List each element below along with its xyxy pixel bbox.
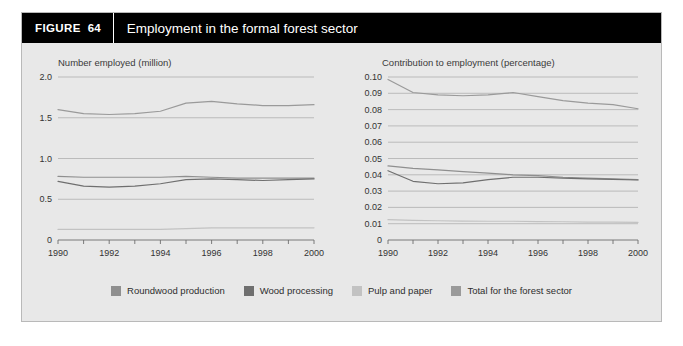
chart-title-left: Number employed (million) (58, 57, 172, 68)
legend-swatch-icon (451, 286, 461, 296)
svg-text:0.01: 0.01 (364, 219, 382, 229)
svg-text:1990: 1990 (48, 248, 68, 258)
legend-swatch-icon (352, 286, 362, 296)
svg-text:0: 0 (47, 235, 52, 245)
legend-item-roundwood-production: Roundwood production (111, 285, 225, 296)
chart-legend: Roundwood production Wood processing Pul… (22, 285, 661, 296)
line-chart-left: 00.51.01.52.0199019921994199619982000 (58, 77, 314, 240)
chart-panel-right: Contribution to employment (percentage) … (352, 43, 664, 279)
plot-area-left: 00.51.01.52.0199019921994199619982000 (58, 77, 314, 240)
svg-text:1996: 1996 (528, 248, 548, 258)
charts-region: Number employed (million) 00.51.01.52.01… (22, 43, 661, 279)
svg-text:2000: 2000 (628, 248, 648, 258)
svg-text:0: 0 (377, 235, 382, 245)
svg-text:0.07: 0.07 (364, 121, 382, 131)
figure-label: FIGURE (22, 22, 81, 34)
svg-text:1.0: 1.0 (39, 154, 52, 164)
legend-label: Roundwood production (127, 285, 225, 296)
plot-area-right: 00.010.020.030.040.050.060.070.080.090.1… (388, 77, 638, 240)
chart-title-right: Contribution to employment (percentage) (382, 57, 555, 68)
svg-text:1996: 1996 (202, 248, 222, 258)
chart-panel-left: Number employed (million) 00.51.01.52.01… (28, 43, 340, 279)
legend-swatch-icon (111, 286, 121, 296)
svg-text:0.02: 0.02 (364, 202, 382, 212)
figure-header: FIGURE 64 Employment in the formal fores… (22, 13, 661, 43)
svg-text:0.08: 0.08 (364, 105, 382, 115)
svg-text:1990: 1990 (378, 248, 398, 258)
svg-text:0.5: 0.5 (39, 194, 52, 204)
svg-text:0.06: 0.06 (364, 137, 382, 147)
figure-number: 64 (81, 22, 101, 34)
figure-title: Employment in the formal forest sector (114, 21, 358, 36)
svg-text:1994: 1994 (478, 248, 498, 258)
legend-swatch-icon (244, 286, 254, 296)
legend-label: Pulp and paper (368, 285, 432, 296)
svg-text:2.0: 2.0 (39, 72, 52, 82)
svg-text:1998: 1998 (578, 248, 598, 258)
figure-container: FIGURE 64 Employment in the formal fores… (21, 12, 662, 322)
legend-item-pulp-and-paper: Pulp and paper (352, 285, 432, 296)
svg-text:1992: 1992 (99, 248, 119, 258)
svg-text:2000: 2000 (304, 248, 324, 258)
svg-text:0.03: 0.03 (364, 186, 382, 196)
svg-text:1992: 1992 (428, 248, 448, 258)
svg-text:0.09: 0.09 (364, 88, 382, 98)
svg-text:1994: 1994 (150, 248, 170, 258)
legend-item-wood-processing: Wood processing (244, 285, 333, 296)
svg-text:1.5: 1.5 (39, 113, 52, 123)
legend-label: Wood processing (260, 285, 333, 296)
svg-text:1998: 1998 (253, 248, 273, 258)
svg-text:0.04: 0.04 (364, 170, 382, 180)
legend-label: Total for the forest sector (467, 285, 572, 296)
svg-text:0.10: 0.10 (364, 72, 382, 82)
legend-item-total-forest-sector: Total for the forest sector (451, 285, 572, 296)
line-chart-right: 00.010.020.030.040.050.060.070.080.090.1… (388, 77, 638, 240)
svg-text:0.05: 0.05 (364, 154, 382, 164)
